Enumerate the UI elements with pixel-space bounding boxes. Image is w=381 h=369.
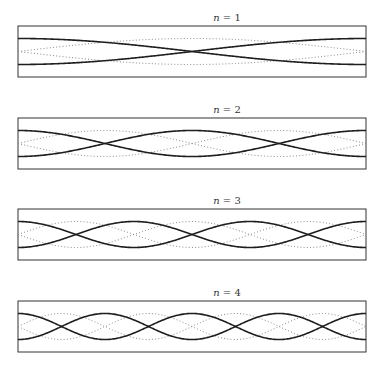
panel-n-1: n = 1 <box>18 12 366 77</box>
panel-n-3: n = 3 <box>18 195 366 260</box>
panel-label: n = 1 <box>213 12 241 23</box>
dotted-curve-lower <box>18 131 366 157</box>
panel-label: n = 4 <box>213 287 241 298</box>
solid-curve-lower <box>18 39 366 65</box>
dotted-curve-lower <box>18 314 366 340</box>
solid-curve-lower <box>18 222 366 248</box>
panel-label: n = 3 <box>213 195 241 206</box>
mode-figure: n = 1n = 2n = 3n = 4 <box>0 0 381 369</box>
panel-label: n = 2 <box>213 104 241 115</box>
panel-n-2: n = 2 <box>18 104 366 169</box>
panel-n-4: n = 4 <box>18 287 366 352</box>
